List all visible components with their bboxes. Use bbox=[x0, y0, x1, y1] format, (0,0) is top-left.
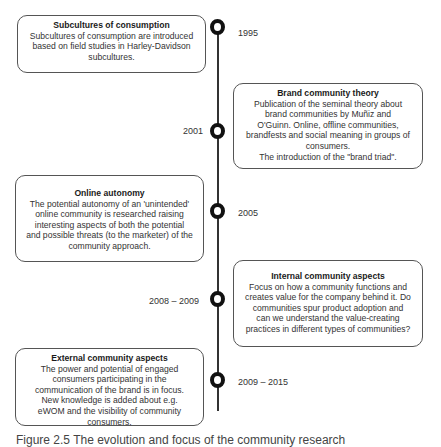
event-description: Publication of the seminal theory about … bbox=[240, 99, 416, 163]
event-year: 2001 bbox=[183, 126, 203, 136]
event-description: Subcultures of consumption are introduce… bbox=[24, 31, 199, 63]
timeline-axis-line bbox=[217, 27, 219, 411]
event-box-internal-community: Internal community aspects Focus on how … bbox=[233, 260, 423, 347]
event-box-brand-community: Brand community theory Publication of th… bbox=[233, 83, 423, 169]
event-year: 2005 bbox=[238, 208, 258, 218]
event-title: Subcultures of consumption bbox=[24, 20, 199, 31]
event-title: External community aspects bbox=[22, 353, 197, 364]
timeline-node-icon bbox=[210, 123, 225, 139]
event-title: Brand community theory bbox=[240, 88, 416, 99]
event-description: The potential autonomy of an 'unintended… bbox=[22, 199, 197, 252]
figure-caption: Figure 2.5 The evolution and focus of th… bbox=[16, 433, 345, 447]
event-description: The power and potential of engaged consu… bbox=[22, 364, 197, 428]
event-box-subcultures: Subcultures of consumption Subcultures o… bbox=[17, 15, 206, 73]
event-box-online-autonomy: Online autonomy The potential autonomy o… bbox=[15, 175, 204, 262]
event-title: Internal community aspects bbox=[240, 271, 416, 282]
event-year: 2008 – 2009 bbox=[149, 296, 199, 306]
event-title: Online autonomy bbox=[22, 188, 197, 199]
event-box-external-community: External community aspects The power and… bbox=[15, 348, 204, 426]
timeline-node-icon bbox=[210, 372, 225, 388]
event-year: 2009 – 2015 bbox=[238, 377, 288, 387]
timeline-node-icon bbox=[210, 291, 225, 307]
timeline-node-icon bbox=[210, 19, 225, 35]
event-description: Focus on how a community functions and c… bbox=[240, 282, 416, 335]
timeline-node-icon bbox=[210, 203, 225, 219]
event-year: 1995 bbox=[238, 28, 258, 38]
